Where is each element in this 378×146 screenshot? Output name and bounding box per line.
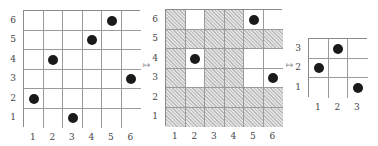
point-dot: [353, 83, 363, 93]
y-axis-label: 2: [7, 93, 19, 103]
y-axis-label: 5: [7, 34, 19, 44]
grid-cell: [122, 109, 142, 129]
grid-cell: [348, 59, 368, 79]
grid-cell: [102, 50, 122, 70]
grid-cell: [102, 31, 122, 51]
y-axis-label: 3: [292, 43, 304, 53]
grid-cell: [186, 88, 206, 108]
grid-cell: [205, 30, 225, 50]
y-axis-label: 4: [7, 54, 19, 64]
y-axis-label: 1: [292, 82, 304, 92]
grid-cell: [83, 89, 103, 109]
grid-cell: [83, 70, 103, 90]
grid-cell: [309, 78, 329, 98]
grid-cell: [225, 30, 245, 50]
grid-selected: [165, 9, 282, 126]
y-axis-label: 4: [149, 53, 161, 63]
x-axis-label: 4: [85, 132, 97, 142]
grid-cell: [225, 10, 245, 30]
grid-cell: [186, 69, 206, 89]
point-dot: [314, 63, 324, 73]
x-axis-label: 2: [46, 132, 58, 142]
grid-cell: [166, 30, 186, 50]
grid-cell: [186, 10, 206, 30]
grid-cell: [122, 31, 142, 51]
grid-cell: [264, 49, 284, 69]
grid-cell: [244, 30, 264, 50]
x-axis-label: 2: [331, 102, 343, 112]
grid-cell: [166, 88, 186, 108]
y-axis-label: 6: [7, 15, 19, 25]
grid-pattern: [308, 38, 367, 97]
point-dot: [68, 113, 78, 123]
grid-cell: [264, 10, 284, 30]
y-axis-label: 3: [149, 72, 161, 82]
grid-cell: [264, 88, 284, 108]
grid-cell: [309, 39, 329, 59]
grid-cell: [122, 11, 142, 31]
grid-cell: [264, 30, 284, 50]
grid-cell: [63, 70, 83, 90]
grid-cell: [244, 108, 264, 128]
x-axis-label: 5: [247, 131, 259, 141]
grid-cell: [244, 69, 264, 89]
grid-cell: [44, 11, 64, 31]
x-axis-label: 1: [312, 102, 324, 112]
grid-cell: [44, 31, 64, 51]
grid-cell: [166, 69, 186, 89]
grid-cell: [102, 109, 122, 129]
y-axis-label: 2: [149, 92, 161, 102]
grid-cell: [122, 89, 142, 109]
grid-cell: [166, 10, 186, 30]
grid-cell: [83, 50, 103, 70]
grid-cell: [186, 30, 206, 50]
y-axis-label: 2: [292, 62, 304, 72]
grid-cell: [44, 89, 64, 109]
grid-cell: [102, 89, 122, 109]
grid-cell: [63, 50, 83, 70]
x-axis-label: 4: [227, 131, 239, 141]
grid-cell: [83, 109, 103, 129]
grid-cell: [205, 10, 225, 30]
grid-original: [23, 10, 140, 127]
grid-cell: [205, 88, 225, 108]
x-axis-label: 3: [66, 132, 78, 142]
grid-cell: [329, 59, 349, 79]
y-axis-label: 3: [7, 73, 19, 83]
y-axis-label: 6: [149, 14, 161, 24]
grid-cell: [205, 69, 225, 89]
grid-cell: [225, 69, 245, 89]
grid-cell: [244, 88, 264, 108]
grid-cell: [205, 49, 225, 69]
grid-cell: [44, 70, 64, 90]
point-dot: [29, 94, 39, 104]
point-dot: [107, 16, 117, 26]
x-axis-label: 1: [27, 132, 39, 142]
y-axis-label: 5: [149, 33, 161, 43]
grid-cell: [186, 108, 206, 128]
x-axis-label: 3: [208, 131, 220, 141]
grid-cell: [63, 11, 83, 31]
grid-cell: [83, 11, 103, 31]
grid-cell: [225, 108, 245, 128]
y-axis-label: 1: [7, 112, 19, 122]
grid-cell: [24, 109, 44, 129]
maps-to-arrow-icon: ↦: [143, 60, 151, 70]
grid-cell: [24, 31, 44, 51]
x-axis-label: 5: [105, 132, 117, 142]
x-axis-label: 2: [188, 131, 200, 141]
grid-cell: [264, 108, 284, 128]
x-axis-label: 6: [266, 131, 278, 141]
grid-cell: [102, 70, 122, 90]
grid-cell: [225, 49, 245, 69]
x-axis-label: 3: [351, 102, 363, 112]
grid-cell: [244, 49, 264, 69]
x-axis-label: 6: [124, 132, 136, 142]
point-dot: [249, 15, 259, 25]
maps-to-arrow-icon: ↦: [286, 60, 294, 70]
grid-cell: [225, 88, 245, 108]
point-dot: [333, 44, 343, 54]
grid-cell: [166, 49, 186, 69]
grid-cell: [63, 31, 83, 51]
grid-cell: [44, 109, 64, 129]
